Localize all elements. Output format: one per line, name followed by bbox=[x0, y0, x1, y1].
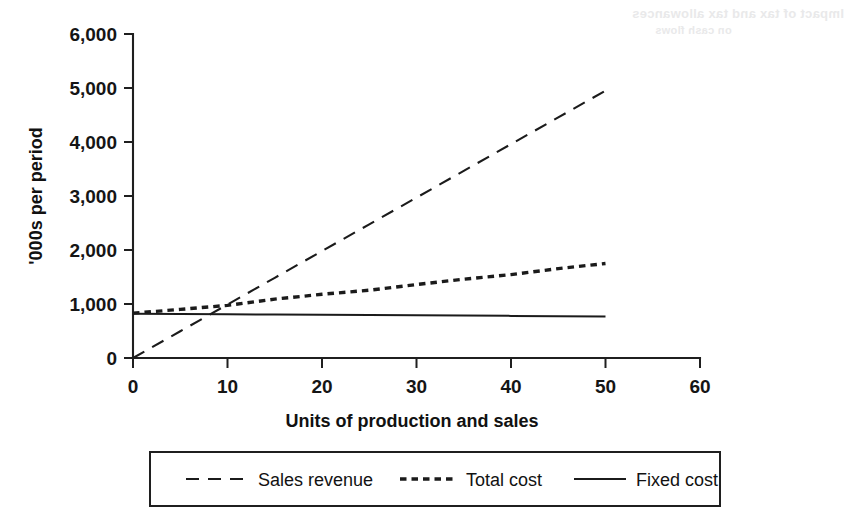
series-line-total-cost bbox=[133, 264, 606, 314]
x-axis-ticks: 0102030405060 bbox=[128, 358, 711, 397]
x-tick-label: 30 bbox=[406, 376, 427, 397]
x-tick-label: 50 bbox=[595, 376, 616, 397]
y-axis-ticks: 01,0002,0003,0004,0005,0006,000 bbox=[69, 24, 133, 369]
x-tick-label: 60 bbox=[689, 376, 710, 397]
page-bleed-through-line-2: on cash flows bbox=[655, 24, 732, 36]
x-tick-label: 40 bbox=[500, 376, 521, 397]
x-tick-label: 0 bbox=[128, 376, 139, 397]
y-tick-label: 6,000 bbox=[69, 24, 117, 45]
y-tick-label: 3,000 bbox=[69, 186, 117, 207]
y-tick-label: 2,000 bbox=[69, 240, 117, 261]
y-tick-label: 4,000 bbox=[69, 132, 117, 153]
series-line-sales-revenue bbox=[133, 91, 606, 358]
chart-legend: Sales revenueTotal costFixed cost bbox=[150, 452, 720, 506]
y-tick-label: 1,000 bbox=[69, 294, 117, 315]
x-tick-label: 20 bbox=[311, 376, 332, 397]
legend-label-sales-revenue: Sales revenue bbox=[258, 470, 373, 490]
y-tick-label: 5,000 bbox=[69, 78, 117, 99]
legend-label-total-cost: Total cost bbox=[466, 470, 542, 490]
y-tick-label: 0 bbox=[106, 348, 117, 369]
x-axis-title: Units of production and sales bbox=[285, 411, 538, 431]
y-axis-title: '000s per period bbox=[26, 127, 46, 264]
x-tick-label: 10 bbox=[217, 376, 238, 397]
legend-label-fixed-cost: Fixed cost bbox=[636, 470, 718, 490]
page-bleed-through-line-1: Impact of tax and tax allowances bbox=[632, 6, 844, 21]
series-line-fixed-cost bbox=[133, 314, 606, 317]
